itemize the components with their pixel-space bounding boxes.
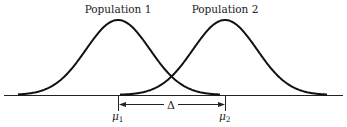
population-1-label: Population 1 [85,3,152,15]
two-populations-diagram: Δ Population 1 Population 2 μ1 μ2 [0,0,347,127]
population-1-curve [18,20,220,95]
arrowhead-right-icon [218,102,225,107]
mu2-label: μ2 [219,110,231,124]
delta-label: Δ [167,99,175,112]
arrowhead-left-icon [119,102,126,107]
population-2-curve [120,20,327,95]
population-2-label: Population 2 [192,3,259,15]
mu1-label: μ1 [112,110,124,124]
